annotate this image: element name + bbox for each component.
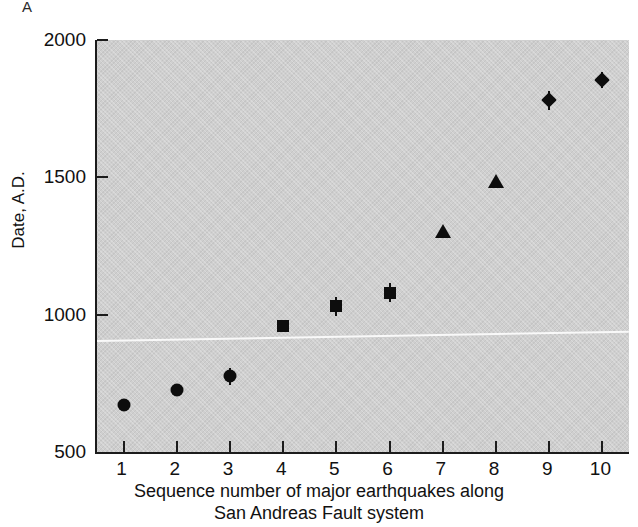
x-axis-tick: [495, 441, 497, 452]
x-axis-tick-label: 9: [527, 458, 567, 480]
y-axis-tick: [97, 39, 108, 41]
x-axis-caption-line-2: San Andreas Fault system: [0, 502, 638, 524]
scan-artifact-line: [97, 331, 629, 342]
x-axis-tick: [176, 441, 178, 452]
x-axis-tick-label: 8: [474, 458, 514, 480]
y-axis-tick-label: 1000: [0, 305, 86, 325]
x-axis-caption: Sequence number of major earthquakes alo…: [0, 480, 638, 524]
data-point-triangle: [488, 174, 504, 188]
y-axis-tick-label: 2000: [0, 30, 86, 50]
y-axis-tick-label: 500: [0, 442, 86, 462]
data-point-circle: [170, 384, 183, 397]
x-axis-tick: [123, 441, 125, 452]
x-axis-tick: [601, 441, 603, 452]
x-axis-tick: [442, 441, 444, 452]
y-axis-tick-label: 1500: [0, 167, 86, 187]
x-axis-tick: [229, 441, 231, 452]
x-axis-tick-label: 1: [102, 458, 142, 480]
data-point-square: [330, 300, 342, 312]
x-axis-tick-label: 3: [208, 458, 248, 480]
x-axis-tick: [548, 441, 550, 452]
x-axis-tick-label: 2: [155, 458, 195, 480]
y-axis-tick: [97, 176, 108, 178]
x-axis-tick-label: 7: [421, 458, 461, 480]
x-axis-tick-label: 4: [261, 458, 301, 480]
x-axis-caption-line-1: Sequence number of major earthquakes alo…: [134, 481, 504, 501]
data-point-square: [277, 320, 289, 332]
data-point-diamond: [541, 93, 557, 109]
figure-panel-a: A Date, A.D. 500100015002000 12345678910…: [0, 0, 638, 527]
x-axis-tick: [335, 441, 337, 452]
data-point-diamond: [595, 72, 611, 88]
plot-area: [95, 40, 629, 454]
x-axis-tick-label: 10: [580, 458, 620, 480]
data-point-circle: [224, 370, 237, 383]
x-axis-tick-label: 5: [314, 458, 354, 480]
data-point-triangle: [435, 224, 451, 238]
y-axis-tick: [97, 314, 108, 316]
panel-letter: A: [22, 0, 32, 16]
data-point-square: [384, 287, 396, 299]
x-axis-tick-label: 6: [368, 458, 408, 480]
x-axis-tick: [282, 441, 284, 452]
x-axis-tick: [389, 441, 391, 452]
data-point-circle: [117, 399, 130, 412]
